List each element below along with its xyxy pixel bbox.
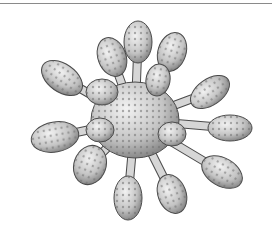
lobe [185, 69, 236, 116]
lobe [35, 53, 89, 102]
lobe [152, 170, 192, 217]
lobe [86, 118, 114, 142]
lobe [86, 79, 118, 105]
lobe [124, 21, 152, 63]
lobe [158, 122, 186, 146]
lobe [208, 115, 252, 141]
radial-lobed-illustration [0, 0, 272, 230]
lobe [29, 118, 81, 156]
lobe [196, 149, 248, 195]
lobe [114, 176, 142, 220]
